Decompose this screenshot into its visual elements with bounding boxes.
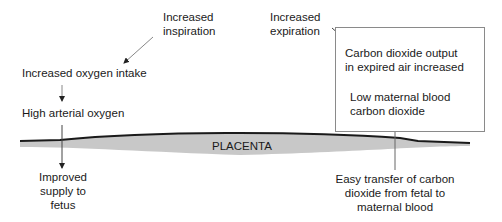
text-line: Improved [38,170,88,184]
text-line: maternal blood [330,200,460,214]
text-line: in expired air increased [345,60,464,74]
label-easy-transfer: Easy transfer of carbon dioxide from fet… [330,172,460,214]
text-line: dioxide from fetal to [330,186,460,200]
label-improved-supply: Improved supply to fetus [38,170,88,212]
label-increased-oxygen-intake: Increased oxygen intake [22,66,147,80]
text-line: Increased [270,10,321,24]
label-high-arterial-oxygen: High arterial oxygen [22,106,124,120]
label-increased-inspiration: Increased inspiration [163,10,215,38]
text-line: Low maternal blood [350,90,450,104]
text-line: expiration [270,24,321,38]
text-line: Carbon dioxide output [345,46,464,60]
label-placenta: PLACENTA [212,139,272,153]
text-line: supply to [38,184,88,198]
text-line: inspiration [163,24,215,38]
text-line: Easy transfer of carbon [330,172,460,186]
text-line: carbon dioxide [350,104,450,118]
arrow-inspiration-to-intake [124,37,153,63]
text-line: fetus [38,198,88,212]
label-co2-output: Carbon dioxide output in expired air inc… [345,46,464,74]
text-line: Increased [163,10,215,24]
label-increased-expiration: Increased expiration [270,10,321,38]
label-low-maternal-co2: Low maternal blood carbon dioxide [350,90,450,118]
